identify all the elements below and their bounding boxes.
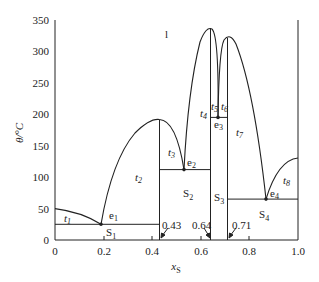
solid-S4: S4 <box>259 208 269 223</box>
solid-S1: S1 <box>106 226 116 241</box>
x-tick-labels: 0 0.2 0.4 0.6 0.8 1.0 <box>52 245 305 257</box>
axes <box>55 20 298 240</box>
liquidus-t3 <box>160 120 185 170</box>
x-tick: 0.4 <box>145 245 159 257</box>
y-tick: 200 <box>33 108 50 120</box>
eutectic-point-e1 <box>99 223 103 227</box>
compound-marker-071: 0.71 <box>232 219 251 231</box>
liquidus-curves <box>55 29 298 225</box>
solid-labels: S1 S2 S3 S4 <box>106 187 269 241</box>
y-tick: 300 <box>33 45 50 57</box>
phase-diagram: 0 50 100 150 200 250 300 350 0 0.2 0.4 0… <box>0 0 319 282</box>
x-tick: 0 <box>52 245 58 257</box>
eutectic-e1: e1 <box>109 209 118 223</box>
eutectic-point-e2 <box>182 168 186 172</box>
eutectic-point-e4 <box>264 197 268 201</box>
x-axis-title: xS <box>170 260 180 275</box>
region-t2: t2 <box>135 171 142 185</box>
y-tick: 150 <box>33 140 50 152</box>
y-axis-title: θ/°C <box>13 122 25 143</box>
y-tick-labels: 0 50 100 150 200 250 300 350 <box>33 14 50 246</box>
y-tick: 350 <box>33 14 50 26</box>
y-tick: 50 <box>38 203 50 215</box>
x-tick: 0.8 <box>242 245 256 257</box>
compound-markers: 0.43 0.64 0.71 <box>162 219 251 231</box>
region-t4: t4 <box>200 107 207 121</box>
region-t8: t8 <box>283 174 290 188</box>
x-tick: 1.0 <box>291 245 305 257</box>
liquidus-t1 <box>55 209 101 225</box>
y-tick: 100 <box>33 171 50 183</box>
region-t3: t3 <box>168 146 175 160</box>
y-tick: 0 <box>44 234 50 246</box>
region-labels: t1 t2 t3 t4 t5 t6 t7 t8 <box>64 100 290 226</box>
x-tick: 0.6 <box>194 245 208 257</box>
eutectic-e3: e3 <box>214 118 223 132</box>
region-t5: t5 <box>211 100 218 114</box>
eutectic-e2: e2 <box>187 156 196 170</box>
eutectic-e4: e4 <box>270 187 279 201</box>
solid-S2: S2 <box>183 187 193 202</box>
y-tick: 250 <box>33 77 50 89</box>
x-tick: 0.2 <box>97 245 111 257</box>
liquidus-t4 <box>184 29 212 170</box>
compound-marker-064: 0.64 <box>192 219 212 231</box>
liquid-region-label: l <box>165 28 168 40</box>
region-t1: t1 <box>64 212 71 226</box>
liquidus-t6-t7 <box>218 37 266 199</box>
solid-S3: S3 <box>214 191 224 206</box>
compound-marker-043: 0.43 <box>162 219 182 231</box>
region-t7: t7 <box>236 126 244 140</box>
